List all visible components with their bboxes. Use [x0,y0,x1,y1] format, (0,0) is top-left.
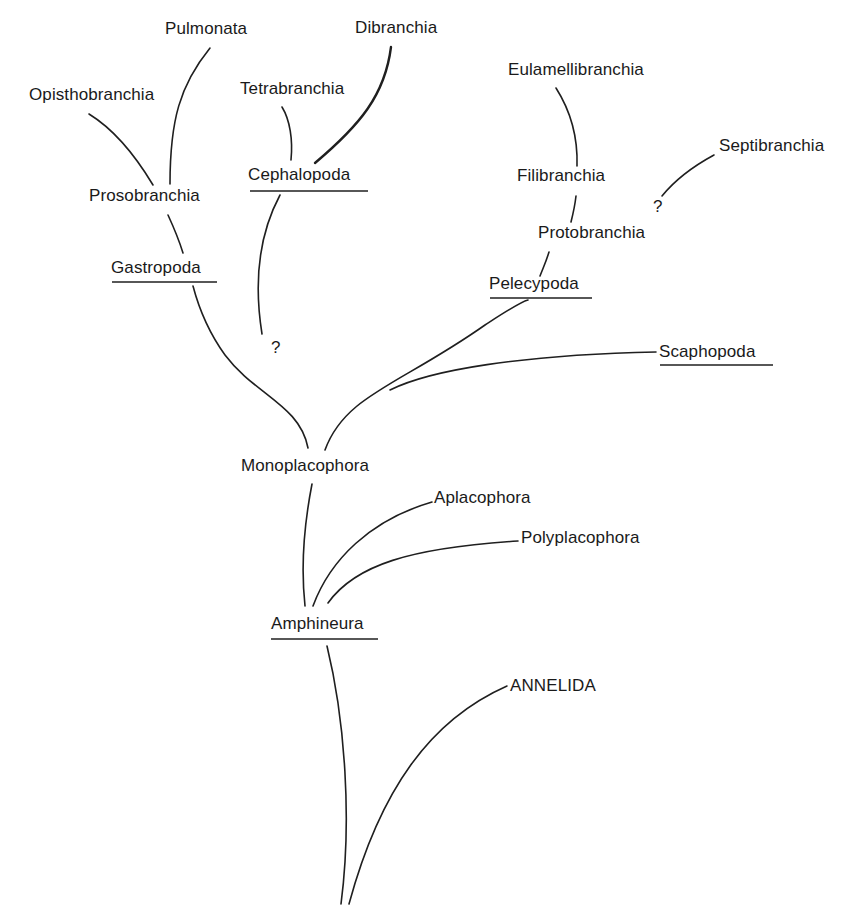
node-cephalopoda: Cephalopoda [248,165,350,185]
edge-question-cephalopoda [258,195,280,334]
edge-gastropoda-prosobranchia [168,215,183,253]
uncertain-mark-cephalopoda: ? [271,338,280,358]
node-prosobranchia: Prosobranchia [89,186,200,206]
edge-protobranchia-filibranchia [571,196,576,222]
edge-root-annelida [349,686,507,904]
node-monoplacophora: Monoplacophora [241,456,369,476]
node-polyplacophora: Polyplacophora [521,528,640,548]
node-filibranchia: Filibranchia [517,166,605,186]
edge-cephalopoda-tetrabranchia [282,107,292,160]
edge-monoplacophora-scaphopoda [390,352,656,390]
node-amphineura: Amphineura [271,614,364,634]
edge-pelecypoda-protobranchia [540,252,549,276]
edge-amphineura-polyplacophora [328,541,518,603]
uncertain-mark-septibranchia: ? [653,197,662,217]
edge-monoplacophora-gastropoda [193,286,308,448]
node-protobranchia: Protobranchia [538,223,645,243]
node-annelida: ANNELIDA [510,676,596,696]
edge-prosobranchia-opisthobranchia [89,114,153,185]
node-pulmonata: Pulmonata [165,19,247,39]
node-septibranchia: Septibranchia [719,136,824,156]
node-pelecypoda: Pelecypoda [489,274,579,294]
node-gastropoda: Gastropoda [111,258,201,278]
node-aplacophora: Aplacophora [434,488,531,508]
node-scaphopoda: Scaphopoda [659,342,755,362]
node-dibranchia: Dibranchia [355,18,437,38]
edge-prosobranchia-pulmonata [170,48,210,184]
edge-monoplacophora-pelecypoda [325,300,528,450]
edge-root-amphineura [327,646,346,904]
edge-amphineura-monoplacophora [303,484,312,606]
edge-cephalopoda-dibranchia [315,47,391,163]
edge-question-septibranchia [662,155,714,196]
node-eulamellibranchia: Eulamellibranchia [508,60,644,80]
edge-filibranchia-eulamellibranchia [556,88,577,166]
node-tetrabranchia: Tetrabranchia [240,79,344,99]
node-opisthobranchia: Opisthobranchia [29,85,154,105]
